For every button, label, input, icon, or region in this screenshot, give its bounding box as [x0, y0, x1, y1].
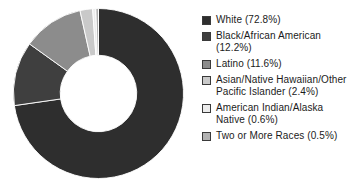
donut-slice-group	[14, 9, 184, 179]
legend-item-black-african-american[interactable]: Black/African American (12.2%)	[202, 30, 359, 54]
legend-item-label: Asian/Native Hawaiian/Other Pacific Isla…	[216, 74, 347, 98]
legend-item-two-or-more-races[interactable]: Two or More Races (0.5%)	[202, 130, 359, 142]
legend-swatch-icon	[202, 132, 211, 141]
legend-swatch-icon	[202, 60, 211, 69]
donut-chart-svg	[10, 5, 190, 186]
legend-swatch-icon	[202, 104, 211, 113]
chart-legend: White (72.8%)Black/African American (12.…	[202, 14, 359, 146]
chart-page: White (72.8%)Black/African American (12.…	[0, 0, 359, 191]
legend-item-label: Latino (11.6%)	[216, 58, 282, 70]
legend-swatch-icon	[202, 32, 211, 41]
legend-item-label: American Indian/Alaska Native (0.6%)	[216, 102, 323, 126]
legend-item-label: Two or More Races (0.5%)	[216, 130, 337, 142]
legend-item-american-indian-alaska-native[interactable]: American Indian/Alaska Native (0.6%)	[202, 102, 359, 126]
legend-swatch-icon	[202, 16, 211, 25]
donut-chart	[10, 5, 190, 186]
legend-swatch-icon	[202, 76, 211, 85]
legend-item-label: Black/African American (12.2%)	[216, 30, 321, 54]
legend-item-white[interactable]: White (72.8%)	[202, 14, 359, 26]
legend-item-asian-nhpi[interactable]: Asian/Native Hawaiian/Other Pacific Isla…	[202, 74, 359, 98]
legend-item-latino[interactable]: Latino (11.6%)	[202, 58, 359, 70]
legend-item-label: White (72.8%)	[216, 14, 281, 26]
